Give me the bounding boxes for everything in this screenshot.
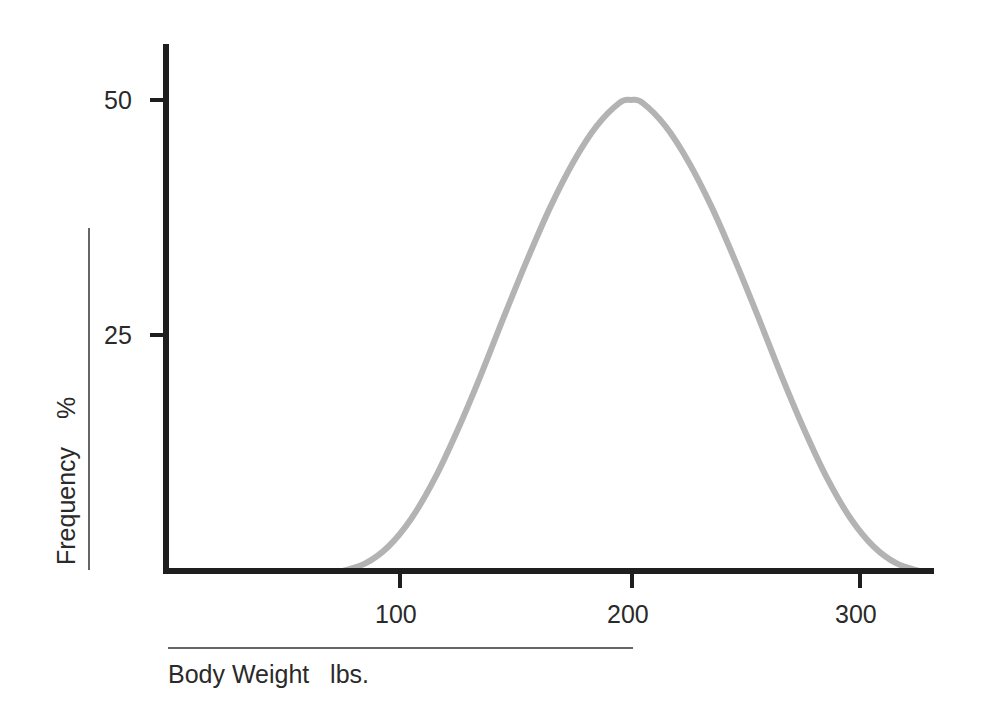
distribution-curve xyxy=(342,100,920,571)
x-tick-label-100: 100 xyxy=(375,600,417,629)
y-tick-label-25: 25 xyxy=(104,321,132,350)
y-tick-label-50: 50 xyxy=(104,86,132,115)
x-tick-label-300: 300 xyxy=(835,600,877,629)
x-axis-title: Body Weight lbs. xyxy=(168,660,369,689)
x-tick-label-200: 200 xyxy=(607,600,649,629)
y-axis-title: Frequency % xyxy=(52,397,81,565)
